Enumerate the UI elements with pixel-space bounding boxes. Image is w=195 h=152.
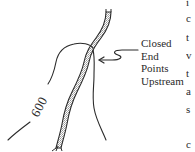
callout-text: Closed End Points Upstream <box>141 37 184 87</box>
stream <box>52 9 111 151</box>
contour-label: 600 <box>27 94 50 120</box>
clipped-body-text-column: i c t v t a s c <box>186 0 195 152</box>
clipped-char: v <box>186 49 192 61</box>
clipped-char: t <box>186 31 189 43</box>
callout-line-3: Points <box>141 62 184 75</box>
contour-line-600 <box>8 43 106 140</box>
callout-line-2: End <box>141 50 184 63</box>
clipped-char: c <box>186 138 191 150</box>
callout-arrow <box>99 50 138 63</box>
callout-line-1: Closed <box>141 37 184 50</box>
clipped-char: s <box>186 103 190 115</box>
contour-stream-diagram: 600 Closed End Points Upstream i c t v t… <box>0 0 195 152</box>
callout-line-4: Upstream <box>141 75 184 88</box>
clipped-char: a <box>186 85 191 97</box>
clipped-char: t <box>186 67 189 79</box>
clipped-char: i <box>186 0 189 8</box>
clipped-char: c <box>186 12 191 24</box>
